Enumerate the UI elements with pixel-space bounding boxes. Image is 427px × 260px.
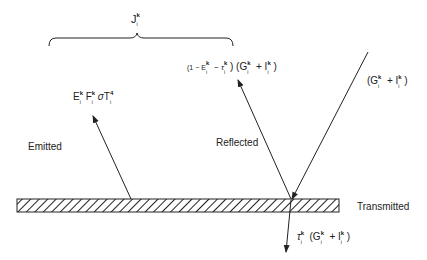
emitted-label: Emitted: [28, 142, 62, 152]
expr-indices: ki: [206, 62, 212, 72]
reflected-label: Reflected: [216, 138, 258, 148]
expr-part: (1 − E: [187, 64, 206, 71]
expr-sup: k: [247, 60, 250, 66]
expr-sub: i: [341, 240, 342, 245]
expr-sub: i: [92, 100, 93, 105]
brace-label-indices: ki: [137, 14, 143, 24]
expr-sub: i: [398, 84, 399, 89]
expr-e-indices: ki: [80, 92, 86, 102]
expr-sup: 4: [110, 90, 113, 96]
expr-sub: i: [80, 100, 81, 105]
expr-sup: k: [206, 60, 209, 66]
expr-part: (G: [367, 75, 378, 86]
expr-part: + I: [327, 231, 341, 242]
expr-sub: i: [206, 70, 207, 75]
expr-sub: i: [321, 240, 322, 245]
expr-part: ): [347, 231, 350, 242]
expr-e: E: [73, 91, 80, 102]
transmitted-label: Transmitted: [357, 202, 409, 212]
brace-label-sub: i: [137, 22, 138, 27]
expr-part: + I: [253, 61, 267, 72]
expr-sup: k: [267, 60, 270, 66]
expr-indices: ki: [341, 232, 347, 242]
expr-indices: ki: [321, 232, 327, 242]
expr-indices: ki: [301, 232, 307, 242]
expr-f-indices: ki: [92, 92, 98, 102]
expr-sup: k: [321, 230, 324, 236]
expr-sub: i: [301, 240, 302, 245]
expr-indices: ki: [378, 76, 384, 86]
expr-part: ): [404, 75, 407, 86]
expr-sup: k: [378, 74, 381, 80]
emitted-expression: EkiFkiσT4i: [73, 92, 116, 102]
diagram-canvas: [0, 0, 427, 260]
expr-indices: ki: [398, 76, 404, 86]
emitted-arrow: [93, 116, 131, 199]
expr-indices: ki: [247, 62, 253, 72]
expr-sup: k: [301, 230, 304, 236]
expr-part: (G: [307, 231, 321, 242]
expr-sub: i: [267, 70, 268, 75]
expr-sup: k: [80, 90, 83, 96]
reflected-expression: (1 − Eki − τki) (Gki + Iki): [187, 62, 277, 72]
expr-indices: ki: [267, 62, 273, 72]
expr-sup: k: [224, 60, 227, 66]
expr-sub: i: [378, 84, 379, 89]
expr-sub: i: [247, 70, 248, 75]
brace-label: Jki: [131, 14, 143, 25]
expr-sup: k: [398, 74, 401, 80]
incident-expression: (Gki + Iki): [367, 76, 408, 86]
expr-sub: i: [110, 100, 111, 105]
expr-t-indices: 4i: [110, 92, 116, 102]
brace-j: [49, 33, 233, 46]
expr-part: − τ: [212, 63, 224, 72]
expr-part: ): [273, 61, 276, 72]
brace-label-sup: k: [137, 12, 140, 18]
expr-sup: k: [92, 90, 95, 96]
transmitted-expression: τki (Gki + Iki): [297, 232, 350, 242]
expr-part: ) (G: [230, 61, 247, 72]
expr-sub: i: [224, 70, 225, 75]
expr-indices: ki: [224, 62, 230, 72]
incident-arrow: [292, 52, 368, 199]
expr-sup: k: [341, 230, 344, 236]
expr-part: + I: [384, 75, 398, 86]
